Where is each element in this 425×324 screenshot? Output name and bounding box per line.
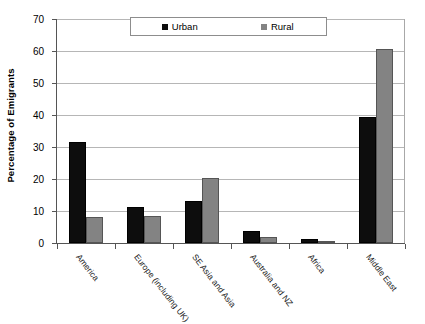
x-tick-mark	[231, 244, 232, 249]
y-tick-label: 20	[0, 174, 44, 185]
x-category-label: Europe (including UK)	[132, 252, 191, 324]
bar-urban-4	[301, 239, 318, 243]
y-tick-label: 40	[0, 110, 44, 121]
legend-item-rural: Rural	[229, 21, 327, 32]
y-tick-label: 70	[0, 14, 44, 25]
bar-rural-1	[144, 216, 161, 243]
y-tick-label: 50	[0, 78, 44, 89]
bar-urban-1	[127, 207, 144, 243]
legend-label-urban: Urban	[172, 21, 198, 32]
y-axis-line	[56, 19, 57, 244]
legend-label-rural: Rural	[271, 21, 294, 32]
bar-urban-3	[243, 231, 260, 243]
gridline	[57, 147, 405, 148]
legend: Urban Rural	[130, 17, 327, 36]
x-category-label: Africa	[306, 252, 327, 275]
y-tick-label: 0	[0, 238, 44, 249]
x-tick-mark	[289, 244, 290, 249]
bar-urban-2	[185, 201, 202, 243]
bar-urban-5	[359, 117, 376, 243]
gridline	[57, 179, 405, 180]
bar-rural-0	[86, 217, 103, 243]
gridline	[57, 51, 405, 52]
legend-swatch-rural	[261, 24, 267, 30]
bar-rural-4	[318, 241, 335, 243]
bar-urban-0	[69, 142, 86, 243]
gridline	[57, 115, 405, 116]
bar-chart: Percentage of Emigrants 010203040506070 …	[0, 0, 425, 324]
y-tick-label: 10	[0, 206, 44, 217]
x-category-label: Middle East	[364, 252, 399, 293]
bar-rural-5	[376, 49, 393, 243]
y-tick-label: 30	[0, 142, 44, 153]
x-category-label: SE Asia and Asia	[190, 252, 238, 309]
gridline	[57, 83, 405, 84]
legend-swatch-urban	[162, 24, 168, 30]
x-tick-mark	[115, 244, 116, 249]
bar-rural-3	[260, 237, 277, 243]
bar-rural-2	[202, 178, 219, 243]
x-tick-mark	[173, 244, 174, 249]
plot-right-border	[404, 19, 405, 244]
x-tick-mark	[57, 244, 58, 249]
gridline	[57, 211, 405, 212]
x-tick-mark	[347, 244, 348, 249]
x-tick-mark	[405, 244, 406, 249]
x-category-label: America	[74, 252, 101, 283]
x-category-label: Australia and NZ	[248, 252, 295, 308]
y-tick-label: 60	[0, 46, 44, 57]
legend-item-urban: Urban	[131, 21, 229, 32]
